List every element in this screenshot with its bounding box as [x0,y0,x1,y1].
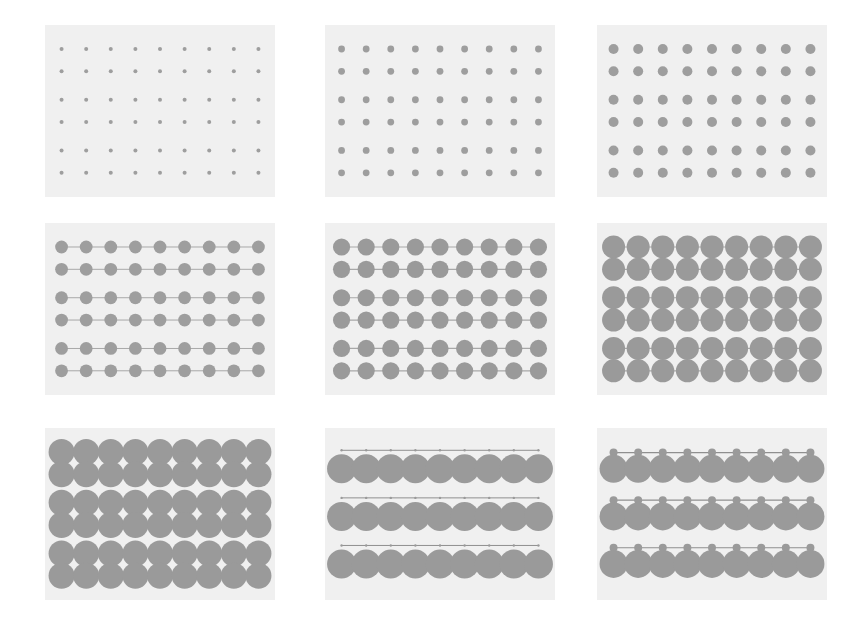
node-marker [178,263,191,276]
node-marker [333,362,350,379]
node-marker [338,96,345,103]
node-marker [407,289,424,306]
node-marker [707,168,717,178]
node-marker [747,502,775,530]
node-marker [535,68,542,75]
node-marker [84,98,88,102]
node-marker [227,314,240,327]
node-marker [55,342,68,355]
header-node [488,449,490,451]
node-marker [732,66,742,76]
node-marker [505,238,522,255]
node-marker [252,342,265,355]
node-marker [701,286,724,309]
node-marker [122,461,148,487]
node-marker [147,563,173,589]
node-marker [701,359,724,382]
node-marker [154,342,167,355]
node-marker [510,119,517,126]
node-marker [382,311,399,328]
node-marker [104,342,117,355]
node-marker [104,241,117,254]
node-marker [172,490,198,516]
node-marker [535,96,542,103]
node-marker [122,490,148,516]
node-marker [530,362,547,379]
node-marker [183,120,187,124]
node-marker [256,98,260,102]
node-marker [221,461,247,487]
node-marker [73,439,99,465]
node-marker [183,69,187,73]
node-marker [781,95,791,105]
node-marker [456,238,473,255]
node-marker [723,550,751,578]
node-marker [133,47,137,51]
node-marker [84,120,88,124]
node-marker [649,550,677,578]
node-marker [676,258,699,281]
node-marker [530,311,547,328]
node-marker [245,540,271,566]
node-marker [600,550,628,578]
node-marker [756,66,766,76]
node-marker [104,291,117,304]
node-marker [203,291,216,304]
node-marker [756,168,766,178]
node-marker [256,69,260,73]
node-marker [203,342,216,355]
node-marker [682,95,692,105]
node-marker [774,258,797,281]
node-marker [673,502,701,530]
node-marker [781,44,791,54]
node-marker [505,340,522,357]
node-marker [203,364,216,377]
node-marker [774,235,797,258]
node-marker [461,147,468,154]
node-marker [183,98,187,102]
panel-r2-c2 [597,428,827,600]
node-marker [227,364,240,377]
node-marker [196,512,222,538]
node-marker [658,44,668,54]
node-marker [183,148,187,152]
node-marker [227,291,240,304]
node-marker [633,44,643,54]
node-marker [602,286,625,309]
header-node [390,449,392,451]
node-marker [183,171,187,175]
node-marker [530,289,547,306]
node-marker [772,455,800,483]
node-marker [55,291,68,304]
node-marker [333,261,350,278]
node-marker [412,96,419,103]
node-marker [651,286,674,309]
node-marker [609,168,619,178]
node-marker [682,168,692,178]
node-marker [774,286,797,309]
node-marker [658,145,668,155]
node-marker [338,46,345,53]
node-marker [627,309,650,332]
node-marker [651,359,674,382]
node-marker [600,455,628,483]
node-marker [781,117,791,127]
node-marker [109,47,113,51]
node-marker [358,261,375,278]
figure-canvas [0,0,860,619]
node-marker [158,69,162,73]
panel-r2-c1 [325,428,555,600]
node-marker [723,502,751,530]
node-marker [104,263,117,276]
node-marker [486,96,493,103]
node-marker [701,337,724,360]
node-marker [486,147,493,154]
node-marker [682,145,692,155]
node-marker [805,168,815,178]
node-marker [602,337,625,360]
node-marker [609,145,619,155]
node-marker [84,47,88,51]
node-marker [510,96,517,103]
node-marker [338,68,345,75]
panel-plot [325,25,555,197]
